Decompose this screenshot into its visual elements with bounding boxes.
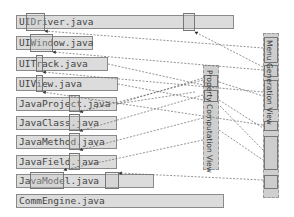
dependency-links [0, 0, 294, 217]
